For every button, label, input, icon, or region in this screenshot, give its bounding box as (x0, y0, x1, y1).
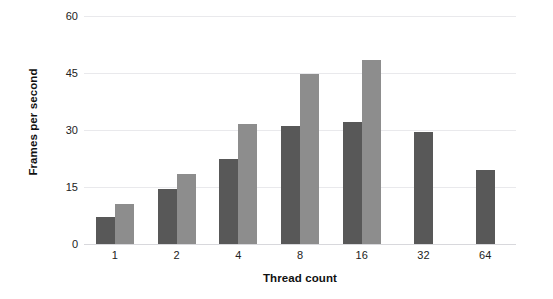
y-tick-label-0: 0 (48, 239, 78, 250)
y-axis-tick-labels: 015304560 (46, 0, 78, 299)
y-tick-label-30: 30 (48, 125, 78, 136)
x-tick-label-8: 8 (297, 250, 303, 261)
bar-series-a-4 (219, 159, 238, 245)
y-tick-label-60: 60 (48, 11, 78, 22)
x-tick-label-32: 32 (417, 250, 429, 261)
x-tick-label-1: 1 (112, 250, 118, 261)
y-tick-label-45: 45 (48, 68, 78, 79)
bar-series-a-32 (414, 132, 433, 244)
x-tick-label-64: 64 (479, 250, 491, 261)
bar-chart: Frames per second 015304560 1248163264 T… (0, 0, 553, 299)
x-tick-label-4: 4 (235, 250, 241, 261)
bar-series-a-8 (281, 126, 300, 244)
bar-series-a-1 (96, 217, 115, 244)
x-axis-title: Thread count (84, 272, 516, 284)
gridline-0 (84, 244, 516, 245)
bar-series-a-64 (476, 170, 495, 244)
bar-series-b-8 (300, 74, 319, 244)
bar-series-b-1 (115, 204, 134, 244)
x-tick-label-16: 16 (356, 250, 368, 261)
bar-series-b-4 (238, 124, 257, 244)
x-tick-label-2: 2 (174, 250, 180, 261)
y-tick-label-15: 15 (48, 182, 78, 193)
plot-area (84, 16, 516, 244)
x-axis-tick-labels: 1248163264 (84, 250, 516, 268)
bar-series-a-16 (343, 122, 362, 244)
bar-series-b-16 (362, 60, 381, 244)
bar-series-b-2 (177, 174, 196, 244)
bars (84, 16, 516, 244)
y-axis-title: Frames per second (22, 0, 44, 244)
bar-series-a-2 (158, 189, 177, 244)
